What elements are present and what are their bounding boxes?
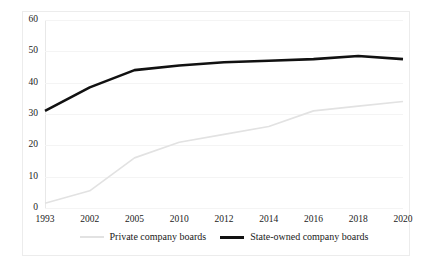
chart-figure: 0102030405060 19932002200520102012201420… xyxy=(0,0,432,268)
legend-label-state-owned-company-boards: State-owned company boards xyxy=(250,232,368,242)
x-tick-label-2014: 2014 xyxy=(259,215,278,225)
gridline-0 xyxy=(45,208,403,209)
plot-area: 0102030405060 19932002200520102012201420… xyxy=(45,20,403,208)
y-tick-label-40: 40 xyxy=(29,78,39,88)
y-tick-label-10: 10 xyxy=(29,172,39,182)
legend-label-private-company-boards: Private company boards xyxy=(110,232,207,242)
legend-entry-state-owned-company-boards[interactable]: State-owned company boards xyxy=(220,232,368,242)
y-tick-label-50: 50 xyxy=(29,47,39,57)
series-line-state-owned-company-boards xyxy=(45,56,403,111)
legend-entry-private-company-boards[interactable]: Private company boards xyxy=(80,232,207,242)
x-tick-label-1993: 1993 xyxy=(36,215,55,225)
y-tick-label-30: 30 xyxy=(29,109,39,119)
x-tick-label-2018: 2018 xyxy=(349,215,368,225)
y-tick-label-20: 20 xyxy=(29,141,39,151)
x-tick-label-2002: 2002 xyxy=(80,215,99,225)
chart-legend: Private company boardsState-owned compan… xyxy=(45,232,403,242)
legend-swatch-private-company-boards xyxy=(80,236,104,238)
x-tick-label-2012: 2012 xyxy=(215,215,234,225)
series-lines xyxy=(45,20,403,208)
legend-swatch-state-owned-company-boards xyxy=(220,236,244,239)
x-tick-label-2016: 2016 xyxy=(304,215,323,225)
y-tick-label-0: 0 xyxy=(33,203,38,213)
y-tick-label-60: 60 xyxy=(29,15,39,25)
x-tick-label-2020: 2020 xyxy=(394,215,413,225)
x-tick-label-2010: 2010 xyxy=(170,215,189,225)
x-tick-label-2005: 2005 xyxy=(125,215,144,225)
series-line-private-company-boards xyxy=(45,101,403,203)
